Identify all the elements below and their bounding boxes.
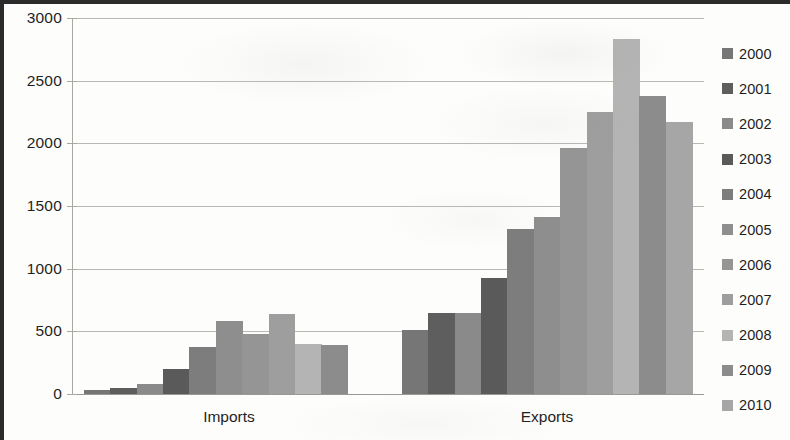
bar-exports-2000	[402, 330, 429, 394]
bar-exports-2001	[428, 313, 455, 394]
bar-imports-2004	[189, 347, 216, 394]
y-tick-label: 1000	[27, 260, 62, 278]
bar-exports-2003	[481, 278, 508, 394]
bar-exports-2005	[534, 217, 561, 394]
y-tick-label: 2000	[27, 134, 62, 152]
y-tick-mark	[67, 394, 77, 395]
legend-swatch-icon	[722, 400, 733, 411]
bar-chart-figure: 050010001500200025003000 ImportsExports …	[0, 0, 790, 440]
legend-swatch-icon	[722, 330, 733, 341]
y-tick-label: 3000	[27, 9, 62, 27]
bar-imports-2008	[295, 344, 322, 394]
legend-label: 2000	[739, 46, 772, 62]
legend-label: 2003	[739, 151, 772, 167]
category-label-exports: Exports	[521, 408, 574, 426]
bar-imports-2007	[269, 314, 296, 394]
legend-swatch-icon	[722, 365, 733, 376]
bar-imports-2009	[321, 345, 348, 395]
bar-exports-2009	[639, 96, 666, 394]
legend-label: 2004	[739, 186, 772, 202]
legend-swatch-icon	[722, 294, 733, 305]
bar-imports-2006	[242, 334, 269, 394]
legend-label: 2007	[739, 292, 772, 308]
legend-label: 2005	[739, 222, 772, 238]
y-tick-label: 500	[36, 322, 62, 340]
bar-exports-2004	[507, 229, 534, 394]
legend-swatch-icon	[722, 48, 733, 59]
bar-exports-2006	[560, 148, 587, 394]
legend-label: 2001	[739, 81, 772, 97]
legend-label: 2010	[739, 397, 772, 413]
plot-area	[72, 18, 704, 394]
legend: 2000200120022003200420052006200720082009…	[722, 36, 790, 423]
bar-exports-2008	[613, 39, 640, 394]
bar-exports-2010	[666, 122, 693, 394]
legend-item-2006[interactable]: 2006	[722, 247, 790, 282]
y-tick-label: 0	[53, 385, 62, 403]
bar-exports-2002	[455, 313, 482, 394]
bar-imports-2003	[163, 369, 190, 394]
legend-item-2004[interactable]: 2004	[722, 177, 790, 212]
bar-imports-2002	[137, 384, 164, 394]
legend-swatch-icon	[722, 224, 733, 235]
bar-imports-2000	[84, 390, 111, 394]
legend-label: 2006	[739, 257, 772, 273]
legend-item-2009[interactable]: 2009	[722, 353, 790, 388]
legend-swatch-icon	[722, 189, 733, 200]
legend-item-2005[interactable]: 2005	[722, 212, 790, 247]
legend-item-2008[interactable]: 2008	[722, 318, 790, 353]
legend-item-2007[interactable]: 2007	[722, 282, 790, 317]
legend-item-2003[interactable]: 2003	[722, 142, 790, 177]
bar-imports-2005	[216, 321, 243, 394]
legend-label: 2009	[739, 362, 772, 378]
legend-label: 2002	[739, 116, 772, 132]
legend-swatch-icon	[722, 259, 733, 270]
legend-label: 2008	[739, 327, 772, 343]
bars-layer	[72, 18, 704, 394]
bar-imports-2001	[110, 388, 137, 394]
y-tick-label: 1500	[27, 197, 62, 215]
y-axis-tick-labels: 050010001500200025003000	[4, 18, 66, 394]
legend-swatch-icon	[722, 154, 733, 165]
legend-swatch-icon	[722, 83, 733, 94]
legend-item-2002[interactable]: 2002	[722, 106, 790, 141]
legend-item-2000[interactable]: 2000	[722, 36, 790, 71]
legend-item-2001[interactable]: 2001	[722, 71, 790, 106]
gridline	[72, 394, 704, 395]
legend-swatch-icon	[722, 118, 733, 129]
legend-item-2010[interactable]: 2010	[722, 388, 790, 423]
y-tick-label: 2500	[27, 72, 62, 90]
category-label-imports: Imports	[203, 408, 255, 426]
bar-exports-2007	[587, 112, 614, 394]
